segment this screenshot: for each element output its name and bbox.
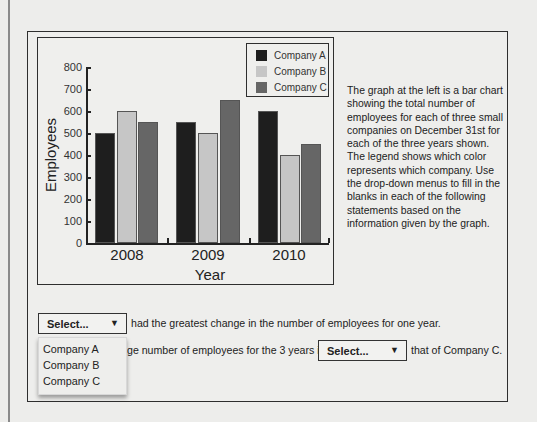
x-tick-label: 2010 [259,246,319,263]
bar-company-b-2008 [117,111,137,243]
question-1-select[interactable]: Select... ▼ [38,313,127,334]
bar-company-a-2009 [176,122,196,243]
dropdown-arrow-icon: ▼ [110,318,119,328]
x-tick [328,238,330,243]
legend-item-company-a: Company A [256,49,326,61]
y-tick-label: 800 [52,61,82,73]
dropdown-option-company-c[interactable]: Company C [43,374,100,389]
bar-company-c-2009 [220,100,240,243]
y-tick-label: 200 [52,193,82,205]
dropdown-option-company-b[interactable]: Company B [43,358,99,373]
dropdown-option-company-a[interactable]: Company A [43,342,99,357]
y-axis [86,67,88,244]
select-label: Select... [327,345,369,357]
y-tick-label: 300 [52,171,82,183]
question-2-text-after: that of Company C. [411,344,502,356]
legend-label: Company C [274,82,327,93]
bar-company-b-2009 [198,133,218,243]
dropdown-arrow-icon: ▼ [390,345,399,355]
legend-item-company-b: Company B [256,65,326,77]
x-axis-title: Year [180,266,240,283]
legend-swatch-company-a [256,50,267,61]
x-tick [249,238,251,243]
bar-company-a-2008 [95,133,115,243]
bar-company-c-2008 [138,122,158,243]
y-tick-label: 0 [52,237,82,249]
select-label: Select... [47,318,89,330]
y-tick-label: 500 [52,127,82,139]
legend-swatch-company-b [256,66,267,77]
question-1-dropdown-menu: Company A Company B Company C [38,337,127,395]
y-tick-label: 700 [52,83,82,95]
x-tick [167,238,169,243]
question-2-select[interactable]: Select... ▼ [318,340,407,361]
legend-label: Company A [274,50,326,61]
question-2-text-before: ge number of employees for the 3 years i… [127,344,325,356]
page-left-rule [8,0,10,422]
instructions-text: The graph at the left is a bar chart sho… [347,84,507,230]
legend-label: Company B [274,66,326,77]
bar-company-b-2010 [280,155,300,243]
y-tick-label: 100 [52,215,82,227]
legend-swatch-company-c [256,82,267,93]
y-tick-label: 400 [52,149,82,161]
x-axis [86,243,329,245]
y-tick-label: 600 [52,105,82,117]
x-tick-label: 2008 [97,246,157,263]
bar-company-a-2010 [258,111,278,243]
legend-item-company-c: Company C [256,81,327,93]
chart-legend: Company A Company B Company C [246,43,329,97]
bar-company-c-2010 [301,144,321,243]
question-1-text: had the greatest change in the number of… [131,317,441,329]
x-tick-label: 2009 [178,246,238,263]
